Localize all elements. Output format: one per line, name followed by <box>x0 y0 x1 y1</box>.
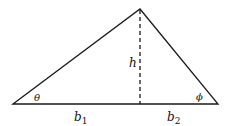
base-b2-label: b2 <box>167 110 180 126</box>
triangle-outline <box>13 9 218 104</box>
height-label: h <box>129 56 137 70</box>
base-b1-label: b1 <box>74 110 87 126</box>
angle-theta-label: θ <box>34 92 40 103</box>
angle-phi-label: ϕ <box>196 91 203 102</box>
triangle-diagram: θ ϕ h b1 b2 <box>0 0 227 126</box>
